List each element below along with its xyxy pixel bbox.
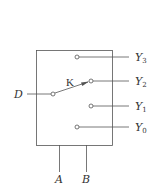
switch-arrow-icon (81, 82, 89, 87)
output-label-y1: Y1 (135, 100, 147, 114)
demux-diagram: K D Y3 Y2 Y1 Y0 A B (0, 0, 156, 196)
output-label-y3: Y3 (135, 51, 147, 65)
select-label-a: A (54, 173, 63, 186)
contact-y2 (89, 79, 93, 83)
contact-y0 (75, 125, 79, 129)
output-label-y2: Y2 (135, 75, 147, 89)
select-label-b: B (81, 173, 90, 186)
contact-y1 (89, 104, 93, 108)
switch-box (37, 51, 113, 146)
input-node (51, 92, 55, 96)
input-label-d: D (13, 88, 23, 101)
switch-label-k: K (66, 76, 74, 88)
contact-y3 (75, 55, 79, 59)
output-label-y0: Y0 (135, 121, 147, 135)
